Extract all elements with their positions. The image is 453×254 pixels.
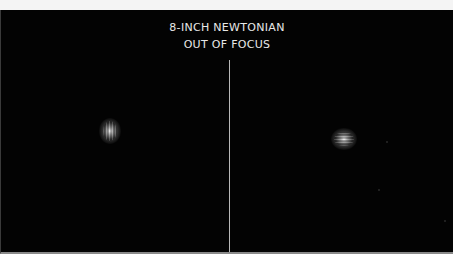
noise-speck	[378, 189, 380, 191]
star-image-left	[99, 118, 121, 144]
title: 8-INCH NEWTONIAN OUT OF FOCUS	[1, 19, 453, 53]
title-line-1: 8-INCH NEWTONIAN	[1, 19, 453, 36]
title-line-2: OUT OF FOCUS	[1, 36, 453, 53]
noise-speck	[386, 141, 388, 143]
noise-speck	[444, 220, 446, 222]
star-image-right	[331, 128, 357, 150]
panel-divider	[229, 60, 230, 252]
image-frame: 8-INCH NEWTONIAN OUT OF FOCUS	[0, 10, 453, 254]
